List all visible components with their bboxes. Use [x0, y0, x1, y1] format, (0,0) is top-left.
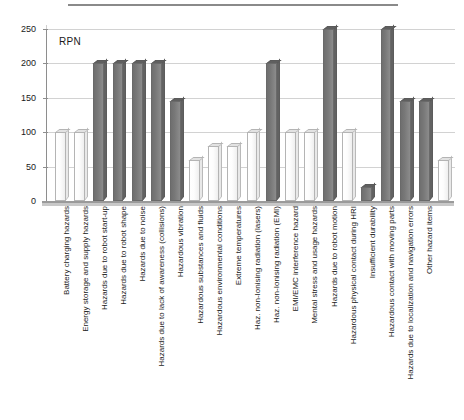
y-tick-label: 150 [2, 94, 36, 103]
y-tick-mark [43, 132, 48, 133]
y-tick-mark [43, 63, 48, 64]
bar-front-face [151, 63, 162, 201]
rpn-bar-chart-figure: 050100150200250 RPN Battery charging haz… [0, 0, 464, 420]
y-tick-mark [43, 167, 48, 168]
x-tick-label: Hazardous substances and fluids [197, 206, 205, 324]
bar [151, 63, 162, 201]
x-tick-label: Mental stress and usage hazards [311, 206, 319, 324]
bar-front-face [266, 63, 277, 201]
x-tick-label: Haz. non-Ionising radiation (lasers) [254, 206, 262, 330]
bar-front-face [74, 132, 85, 201]
bar [74, 132, 85, 201]
bar [304, 132, 315, 201]
bar-front-face [93, 63, 104, 201]
x-tick-label: Other hazard items [426, 206, 434, 274]
y-tick-mark [43, 98, 48, 99]
axis-title-rpn: RPN [59, 36, 81, 47]
x-tick-label: Insufficient durability [369, 206, 377, 278]
x-tick-label: EMI/EMC interference hazard [292, 206, 300, 311]
bar-front-face [113, 63, 124, 201]
y-tick-mark [43, 29, 48, 30]
x-tick-label: Hazards due to noise [139, 206, 147, 282]
bar-front-face [247, 132, 258, 201]
bar-front-face [381, 29, 392, 201]
y-tick-label: 50 [2, 163, 36, 172]
bar [400, 101, 411, 201]
bar [361, 187, 372, 201]
bar [170, 101, 181, 201]
plot-area: 050100150200250 RPN [46, 29, 454, 201]
bar [55, 132, 66, 201]
x-tick-label: Hazards due to robot start-up [101, 206, 109, 310]
bar [438, 160, 449, 201]
bar [342, 132, 353, 201]
bar-front-face [285, 132, 296, 201]
bar-front-face [55, 132, 66, 201]
bar [93, 63, 104, 201]
bar-front-face [227, 146, 238, 201]
y-tick-label: 100 [2, 128, 36, 137]
bar-front-face [189, 160, 200, 201]
bar [132, 63, 143, 201]
bar-front-face [323, 29, 334, 201]
x-tick-label: Extreme temperatures [235, 206, 243, 285]
x-tick-label: Haz. non-Ionising radiation (EMI) [273, 206, 281, 323]
bar [227, 146, 238, 201]
x-tick-label: Hazards due to localization and navigati… [407, 206, 415, 379]
bar-front-face [419, 101, 430, 201]
plot-wrapper: 050100150200250 RPN [46, 29, 454, 201]
y-tick-label: 0 [2, 197, 36, 206]
x-tick-label: Hazards due to lack of awareness (collis… [158, 206, 166, 367]
bar-front-face [208, 146, 219, 201]
x-tick-label: Energy storage and supply hazards [82, 206, 90, 332]
bar-front-face [438, 160, 449, 201]
x-tick-label: Hazardous vibration [177, 206, 185, 277]
x-tick-label: Hazardous contact with moving parts [388, 206, 396, 337]
bar [247, 132, 258, 201]
bar [266, 63, 277, 201]
y-tick-label: 200 [2, 59, 36, 68]
bar-front-face [361, 187, 372, 201]
bar [419, 101, 430, 201]
x-tick-label: Hazardous physical contact during HRI [350, 206, 358, 344]
x-tick-label: Hazards due to robot motion [331, 206, 339, 307]
x-axis-labels: Battery charging hazardsEnergy storage a… [46, 206, 456, 346]
bar-front-face [170, 101, 181, 201]
y-tick-label: 250 [2, 25, 36, 34]
x-tick-label: Battery charging hazards [63, 206, 71, 295]
bar [208, 146, 219, 201]
bar [381, 29, 392, 201]
bar-front-face [132, 63, 143, 201]
bar-front-face [304, 132, 315, 201]
x-tick-label: Hazards due to robot shape [120, 206, 128, 305]
bar-front-face [400, 101, 411, 201]
bar [323, 29, 334, 201]
bar [189, 160, 200, 201]
bar [285, 132, 296, 201]
x-tick-label: Hazardous environmental conditions [216, 206, 224, 335]
bar-front-face [342, 132, 353, 201]
bar [113, 63, 124, 201]
